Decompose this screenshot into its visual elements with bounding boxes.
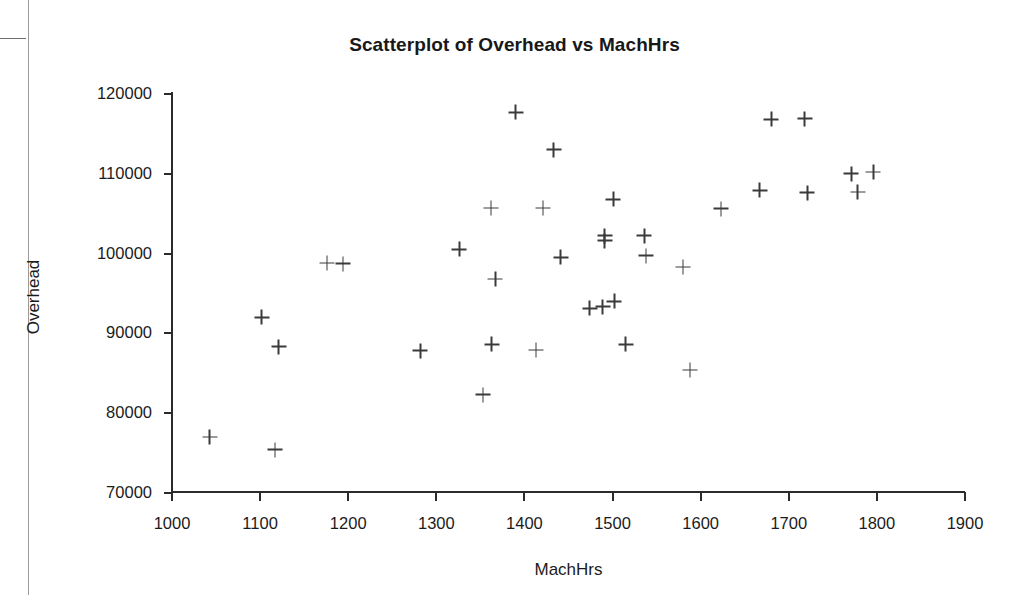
x-axis-tick — [612, 492, 614, 501]
y-axis-tick-label: 90000 — [106, 323, 152, 342]
x-axis-tick-label: 1200 — [330, 514, 367, 533]
data-point — [764, 112, 779, 127]
data-point — [553, 250, 568, 265]
data-point — [582, 301, 597, 316]
data-point — [413, 343, 428, 358]
x-axis-tick-label: 1100 — [242, 514, 277, 533]
data-point — [606, 192, 621, 207]
data-point — [752, 183, 767, 198]
chart-title: Scatterplot of Overhead vs MachHrs — [0, 34, 1029, 56]
data-point — [637, 228, 652, 243]
x-axis-tick-label: 1700 — [770, 514, 807, 533]
data-point — [683, 362, 698, 377]
y-axis-tick-label: 120000 — [97, 84, 152, 103]
data-point — [546, 142, 561, 157]
y-axis-tick-label: 110000 — [98, 163, 152, 182]
data-point — [866, 165, 881, 180]
x-axis-tick — [171, 492, 173, 501]
y-axis-tick-label: 100000 — [97, 243, 152, 262]
data-point — [713, 201, 728, 216]
data-point — [528, 342, 543, 357]
data-point — [797, 111, 812, 126]
y-axis-tick-label: 70000 — [106, 483, 152, 502]
data-point — [508, 105, 523, 120]
data-point — [597, 233, 612, 248]
y-axis-tick: 110000 — [164, 173, 172, 175]
data-point — [476, 387, 491, 402]
y-axis-tick: 90000 — [164, 332, 172, 334]
data-point — [850, 184, 865, 199]
data-point — [844, 166, 859, 181]
data-point — [618, 337, 633, 352]
x-axis-tick — [347, 492, 349, 501]
x-axis-tick — [700, 492, 702, 501]
y-axis-tick-label: 80000 — [106, 403, 152, 422]
y-axis-tick: 100000 — [164, 253, 172, 255]
data-point — [639, 248, 654, 263]
data-point — [676, 259, 691, 274]
x-axis-tick — [523, 492, 525, 501]
x-axis-tick-label: 1500 — [594, 514, 631, 533]
x-axis-tick-label: 1900 — [947, 514, 984, 533]
x-axis-tick-label: 1600 — [682, 514, 719, 533]
plot-area: 7000080000900001000001100001200001000110… — [172, 93, 965, 492]
x-axis-tick-label: 1400 — [506, 514, 543, 533]
x-axis-tick-label: 1300 — [418, 514, 455, 533]
x-axis-tick — [435, 492, 437, 501]
data-point — [484, 337, 499, 352]
data-point — [535, 200, 550, 215]
x-axis-tick-label: 1800 — [859, 514, 896, 533]
data-point — [268, 442, 283, 457]
y-axis-tick: 120000 — [164, 93, 172, 95]
x-axis-tick — [788, 492, 790, 501]
data-point — [320, 255, 335, 270]
data-point — [595, 299, 610, 314]
data-point — [607, 294, 622, 309]
data-point — [202, 429, 217, 444]
x-axis-tick — [964, 492, 966, 501]
x-axis-title: MachHrs — [172, 560, 965, 580]
data-point — [271, 339, 286, 354]
data-point — [800, 185, 815, 200]
x-axis-tick-label: 1000 — [154, 514, 191, 533]
x-axis-tick — [259, 492, 261, 501]
data-point — [335, 256, 350, 271]
y-axis-title: Overhead — [24, 260, 44, 335]
data-point — [597, 228, 612, 243]
x-axis-tick — [876, 492, 878, 501]
data-point — [483, 200, 498, 215]
scatterplot-figure: Scatterplot of Overhead vs MachHrs 70000… — [0, 0, 1029, 595]
data-point — [488, 271, 503, 286]
y-axis-tick: 80000 — [164, 412, 172, 414]
data-point — [254, 310, 269, 325]
data-point — [452, 242, 467, 257]
